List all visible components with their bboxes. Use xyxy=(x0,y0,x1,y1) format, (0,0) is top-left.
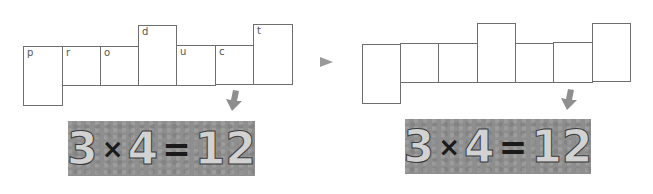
equals-sign: = xyxy=(499,130,528,164)
cell-letter: t xyxy=(257,25,261,37)
cell-letter: c xyxy=(219,46,225,58)
left-equation-slate: 3 × 4 = 12 xyxy=(68,121,255,176)
factor-a: 3 xyxy=(67,127,98,171)
net-cell xyxy=(362,44,401,104)
net-cell xyxy=(477,23,516,83)
net-cell xyxy=(515,43,554,83)
cell-letter: r xyxy=(66,47,70,59)
net-cell xyxy=(400,43,439,83)
factor-a: 3 xyxy=(404,125,435,169)
down-arrow-icon xyxy=(559,89,579,111)
times-sign: × xyxy=(102,136,124,162)
cell-letter: p xyxy=(27,47,33,59)
down-arrow-icon xyxy=(224,90,244,112)
net-cell-u: u xyxy=(176,45,216,86)
net-cell xyxy=(438,43,478,83)
product: 12 xyxy=(531,125,592,169)
right-arrow-icon xyxy=(320,57,333,67)
net-cell xyxy=(553,42,593,83)
cell-letter: u xyxy=(180,46,186,58)
net-cell-r: r xyxy=(62,46,101,86)
net-cell-o: o xyxy=(100,46,139,86)
cell-letter: o xyxy=(104,47,110,59)
net-cell-p: p xyxy=(23,46,63,106)
product: 12 xyxy=(195,127,256,171)
cell-letter: d xyxy=(142,26,148,38)
factor-b: 4 xyxy=(464,125,495,169)
net-cell-d: d xyxy=(138,25,177,86)
right-equation-slate: 3 × 4 = 12 xyxy=(405,119,591,174)
net-cell-t: t xyxy=(253,24,293,85)
net-cell-c: c xyxy=(215,45,254,85)
times-sign: × xyxy=(438,134,460,160)
factor-b: 4 xyxy=(128,127,159,171)
equals-sign: = xyxy=(162,132,191,166)
net-cell xyxy=(592,23,631,82)
